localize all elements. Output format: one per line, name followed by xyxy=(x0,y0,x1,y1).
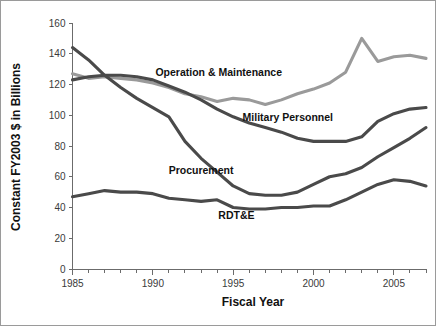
y-tick-label: 20 xyxy=(54,233,66,244)
series-label-operation-maintenance: Operation & Maintenance xyxy=(155,66,282,78)
y-tick-label: 80 xyxy=(54,141,66,152)
x-tick-label: 2005 xyxy=(383,278,406,289)
series-label-procurement: Procurement xyxy=(169,164,234,176)
y-axis-title: Constant FY2003 $ in Billions xyxy=(9,63,23,231)
chart-series-lines xyxy=(73,38,427,209)
chart-tick-marks xyxy=(69,23,427,275)
x-tick-label: 1985 xyxy=(61,278,84,289)
y-tick-label: 60 xyxy=(54,171,66,182)
series-label-rdt-e: RDT&E xyxy=(218,209,254,221)
series-label-military-personnel: Military Personnel xyxy=(243,111,334,123)
y-tick-label: 0 xyxy=(60,264,66,275)
x-tick-label: 2000 xyxy=(302,278,325,289)
chart-container: 020406080100120140160 198519901995200020… xyxy=(0,0,436,326)
y-tick-label: 120 xyxy=(49,79,66,90)
y-tick-label: 160 xyxy=(49,18,66,29)
y-tick-label: 100 xyxy=(49,110,66,121)
defense-budget-line-chart: 020406080100120140160 198519901995200020… xyxy=(1,1,436,326)
y-tick-label: 140 xyxy=(49,48,66,59)
chart-series-labels: Operation & MaintenanceMilitary Personne… xyxy=(155,66,333,221)
x-axis-title: Fiscal Year xyxy=(222,295,285,309)
chart-axes xyxy=(73,23,427,269)
x-tick-label: 1990 xyxy=(142,278,165,289)
y-tick-label: 40 xyxy=(54,202,66,213)
series-line-military-personnel xyxy=(73,75,427,141)
y-axis-tick-labels: 020406080100120140160 xyxy=(49,18,66,275)
x-axis-tick-labels: 19851990199520002005 xyxy=(61,278,405,289)
x-tick-label: 1995 xyxy=(222,278,245,289)
